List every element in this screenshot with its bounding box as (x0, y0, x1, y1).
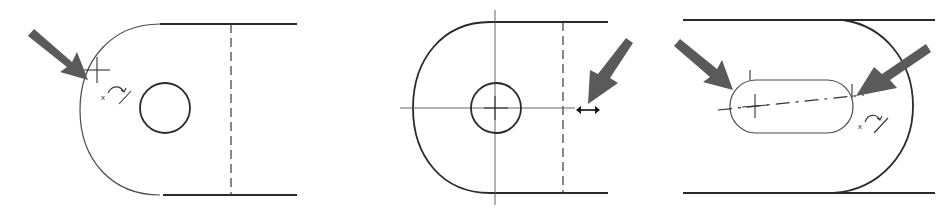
callout-arrow-icon (674, 39, 733, 90)
panel-1: x (28, 24, 297, 195)
panel-2 (400, 10, 633, 205)
tangent-cursor-icon: x (858, 115, 888, 133)
svg-text:x: x (858, 122, 862, 131)
center-mark-icon (484, 96, 508, 120)
cad-figure: x (0, 0, 951, 211)
rounded-end-arc (833, 20, 913, 193)
center-mark-icon (742, 94, 768, 118)
crosshair-cursor-icon (84, 57, 110, 83)
svg-text:x: x (101, 93, 105, 102)
callout-arrow-icon (856, 44, 931, 96)
rounded-end-arc (80, 24, 160, 195)
tangent-cursor-icon: x (101, 87, 131, 104)
panel-3: x (674, 20, 935, 193)
rounded-end-arc (413, 22, 490, 193)
callout-arrow-icon (588, 38, 633, 104)
callout-arrow-icon (28, 29, 88, 80)
resize-horizontal-icon (576, 106, 600, 114)
slot-centerline (718, 95, 864, 110)
hole-circle (140, 83, 190, 133)
figure-canvas: x (0, 0, 951, 211)
